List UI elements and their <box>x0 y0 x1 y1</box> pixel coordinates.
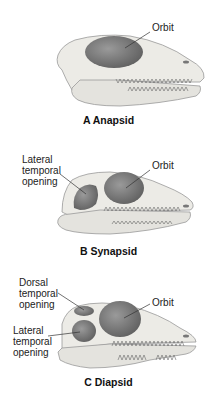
anapsid-caption: A Anapsid <box>0 114 217 126</box>
synapsid-skull-illustration <box>0 130 217 260</box>
diapsid-caption: C Diapsid <box>0 376 217 388</box>
orbit-label: Orbit <box>152 297 174 308</box>
orbit-label: Orbit <box>152 22 174 33</box>
dorsal-temporal-opening <box>74 306 94 316</box>
lateral-temporal-opening-label: Lateral temporal opening <box>13 325 52 358</box>
lateral-temporal-opening-label: Lateral temporal opening <box>22 154 61 187</box>
panel-anapsid: Orbit A Anapsid <box>0 0 217 130</box>
anapsid-skull-illustration <box>0 0 217 130</box>
synapsid-caption: B Synapsid <box>0 245 217 257</box>
dorsal-temporal-opening-label: Dorsal temporal opening <box>19 277 58 310</box>
orbit-opening <box>99 301 141 337</box>
orbit-opening <box>104 172 144 204</box>
orbit-opening <box>85 36 143 68</box>
panel-synapsid: Lateral temporal opening Orbit B Synapsi… <box>0 130 217 260</box>
orbit-label: Orbit <box>152 160 174 171</box>
panel-diapsid: Dorsal temporal opening Orbit Lateral te… <box>0 260 217 394</box>
lateral-temporal-opening <box>72 320 96 342</box>
